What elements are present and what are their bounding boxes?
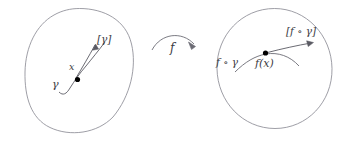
target-tangent-vector <box>268 43 312 53</box>
diagram-canvas <box>0 0 347 143</box>
target-base-point <box>263 50 268 55</box>
map-arrow-head <box>189 42 196 50</box>
source-point-label: x <box>69 62 74 72</box>
source-tangent-label: [γ] <box>97 34 111 45</box>
target-curve-label: f ∘ γ <box>216 57 238 68</box>
target-tangent-arrowhead <box>307 41 314 47</box>
target-point-label: f(x) <box>255 58 274 69</box>
target-tangent-label: [f ∘ γ] <box>286 26 316 37</box>
source-base-point <box>75 77 80 82</box>
source-tangent-vector <box>76 45 95 78</box>
source-curve-label: γ <box>52 79 59 90</box>
map-label: f <box>170 42 174 54</box>
tangent-vector-diagram: γ x [γ] f f ∘ γ f(x) [f ∘ γ] <box>0 0 347 143</box>
source-manifold-boundary <box>25 9 133 133</box>
